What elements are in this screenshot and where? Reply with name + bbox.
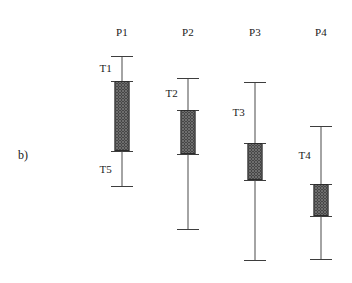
box-p2 — [181, 110, 196, 154]
panel-label: b) — [18, 148, 28, 163]
boxplot-figure: b)P1T1T5P2T2P3T3P4T4 — [0, 0, 352, 283]
bracket-label-t4: T4 — [298, 149, 311, 161]
lower-whisker-p2 — [188, 154, 189, 229]
bracket-label-t1: T1 — [99, 62, 112, 74]
column-label-p1: P1 — [116, 26, 128, 38]
box-p4 — [314, 184, 329, 216]
box-p3 — [248, 143, 263, 180]
lower-whisker-p1 — [122, 151, 123, 186]
upper-whisker-cap-p2 — [177, 78, 199, 79]
upper-whisker-cap-p4 — [310, 126, 332, 127]
lower-whisker-cap-p2 — [177, 229, 199, 230]
upper-whisker-p2 — [188, 78, 189, 110]
upper-whisker-cap-p1 — [111, 56, 133, 57]
lower-whisker-p3 — [255, 180, 256, 260]
column-label-p3: P3 — [249, 26, 261, 38]
box-p1 — [115, 81, 130, 151]
bracket-label-t5: T5 — [99, 163, 112, 175]
column-label-p2: P2 — [182, 26, 194, 38]
upper-whisker-p1 — [122, 56, 123, 81]
upper-whisker-cap-p3 — [244, 82, 266, 83]
upper-whisker-p3 — [255, 82, 256, 143]
lower-whisker-cap-p3 — [244, 260, 266, 261]
lower-whisker-cap-p1 — [111, 186, 133, 187]
bracket-label-t3: T3 — [232, 106, 245, 118]
lower-whisker-p4 — [321, 216, 322, 259]
bracket-label-t2: T2 — [165, 87, 178, 99]
column-label-p4: P4 — [315, 26, 327, 38]
upper-whisker-p4 — [321, 126, 322, 184]
lower-whisker-cap-p4 — [310, 259, 332, 260]
